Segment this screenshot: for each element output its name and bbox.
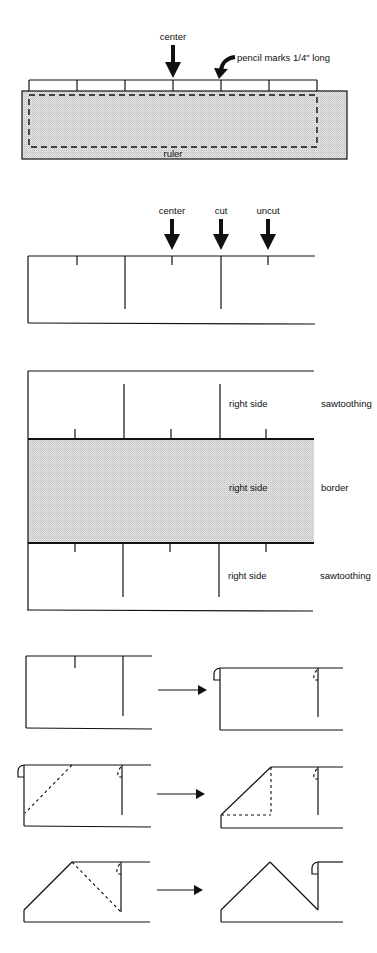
right-arrow-icon (157, 789, 205, 799)
pencil-marks-label: pencil marks 1/4" long (237, 52, 330, 63)
fold-step-2 (18, 765, 343, 828)
down-arrow-icon (213, 219, 229, 250)
cut-section: center cut uncut (28, 205, 315, 324)
right-side-label: right side (229, 482, 268, 493)
border-label: border (321, 482, 348, 493)
fold-step-3 (24, 862, 343, 922)
fold-step-1-after (214, 668, 343, 730)
fold-step-1 (26, 656, 343, 730)
right-side-label: right side (228, 570, 267, 581)
fabric-strip (28, 256, 315, 324)
center-label: center (160, 31, 186, 42)
center-label: center (159, 205, 185, 216)
corner-curl-icon (312, 862, 318, 874)
ruler-label: ruler (163, 148, 182, 159)
sawtoothing-label: sawtoothing (321, 398, 372, 409)
down-arrow-icon (260, 219, 276, 250)
down-arrow-icon (164, 219, 180, 250)
fold-step-3-after (221, 862, 343, 922)
ruler-section: center pencil marks 1/4" long ruler (22, 31, 347, 159)
corner-curl-icon (214, 668, 220, 680)
curved-arrow-icon (214, 57, 235, 79)
right-arrow-icon (158, 685, 207, 695)
layout-section: right side sawtoothing right side border… (27, 371, 372, 611)
right-arrow-icon (157, 885, 203, 895)
diagram-canvas: center pencil marks 1/4" long ruler cent… (0, 0, 377, 953)
pencil-marks (29, 80, 317, 91)
fold-step-1-before (26, 656, 152, 729)
ruler (22, 91, 347, 159)
corner-curl-icon (18, 765, 24, 777)
sawtoothing-label: sawtoothing (320, 570, 371, 581)
right-side-label: right side (229, 398, 268, 409)
cut-label: cut (215, 205, 228, 216)
fold-step-2-before (18, 765, 151, 827)
fold-step-2-after (221, 767, 343, 828)
uncut-label: uncut (256, 205, 280, 216)
fold-step-3-before (24, 862, 150, 922)
down-arrow-icon (165, 45, 181, 78)
border-band (28, 439, 314, 543)
